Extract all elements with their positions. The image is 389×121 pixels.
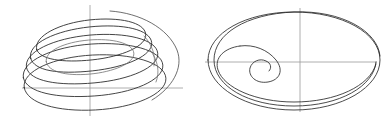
spiral-inner-coil [240,46,280,83]
right-third-turn [217,46,376,102]
left-helix-loops [21,14,167,113]
right-outer-turn [208,12,380,110]
spiral-third-turn [217,46,376,102]
helix-loop-2 [28,21,154,78]
helix-loop-4 [21,39,164,101]
left-spiral-svg [0,0,195,121]
left-helix-connectors [144,36,158,82]
chart-panel-left [0,0,195,121]
right-spiral-svg [194,0,389,121]
figure-container [0,0,389,121]
right-inner-coil [240,46,280,83]
chart-panel-right [194,0,389,121]
spiral-outer-ellipse [208,12,380,110]
